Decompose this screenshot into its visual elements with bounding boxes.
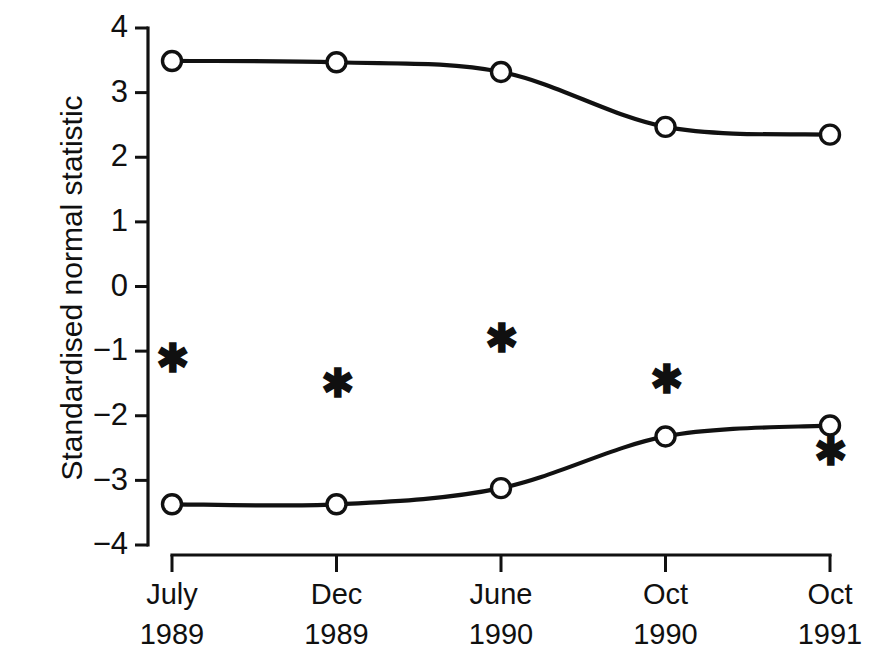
data-point-marker xyxy=(327,495,346,514)
x-tick-label-year: 1989 xyxy=(304,618,369,650)
x-tick-label-year: 1991 xyxy=(798,618,863,650)
data-point-marker xyxy=(327,53,346,72)
x-tick-label-month: July xyxy=(146,578,198,610)
asterisk-marker: ✱ xyxy=(650,357,684,401)
y-tick-label: −2 xyxy=(93,397,128,432)
x-tick-label-year: 1989 xyxy=(140,618,205,650)
y-tick-label: 0 xyxy=(111,268,128,303)
y-axis: 43210−1−2−3−4 xyxy=(93,9,148,561)
x-tick-label-month: Oct xyxy=(807,578,852,610)
data-point-marker xyxy=(656,427,675,446)
asterisk-marker: ✱ xyxy=(814,429,848,473)
data-point-marker xyxy=(163,51,182,70)
asterisk-marker: ✱ xyxy=(321,361,355,405)
series-upper-boundary xyxy=(163,51,840,144)
y-tick-label: 2 xyxy=(111,138,128,173)
y-tick-label: −3 xyxy=(93,462,128,497)
data-point-marker xyxy=(492,479,511,498)
x-axis-ticks xyxy=(172,555,830,572)
y-tick-label: −4 xyxy=(93,526,128,561)
data-point-marker xyxy=(163,495,182,514)
chart-plot-area: 43210−1−2−3−4 July1989Dec1989June1990Oct… xyxy=(0,0,883,662)
x-tick-label-month: Dec xyxy=(311,578,363,610)
x-axis-tick-labels: July1989Dec1989June1990Oct1990Oct1991 xyxy=(140,578,863,650)
y-tick-label: 4 xyxy=(111,9,128,44)
y-tick-label: −1 xyxy=(93,332,128,367)
series-lower-boundary xyxy=(163,416,840,514)
chart-figure: Standardised normal statistic 43210−1−2−… xyxy=(0,0,883,662)
series-observed-statistic: ✱✱✱✱✱ xyxy=(156,316,848,473)
y-axis-tick-labels: 43210−1−2−3−4 xyxy=(93,9,128,561)
y-axis-ticks xyxy=(135,28,148,545)
x-axis: July1989Dec1989June1990Oct1990Oct1991 xyxy=(140,555,863,650)
y-tick-label: 3 xyxy=(111,74,128,109)
x-tick-label-year: 1990 xyxy=(633,618,698,650)
x-tick-label-month: Oct xyxy=(643,578,688,610)
data-point-marker xyxy=(492,62,511,81)
asterisk-marker: ✱ xyxy=(156,336,190,380)
x-tick-label-month: June xyxy=(470,578,533,610)
y-tick-label: 1 xyxy=(111,203,128,238)
asterisk-marker: ✱ xyxy=(485,316,519,360)
data-point-marker xyxy=(821,125,840,144)
x-tick-label-year: 1990 xyxy=(469,618,534,650)
data-point-marker xyxy=(656,117,675,136)
